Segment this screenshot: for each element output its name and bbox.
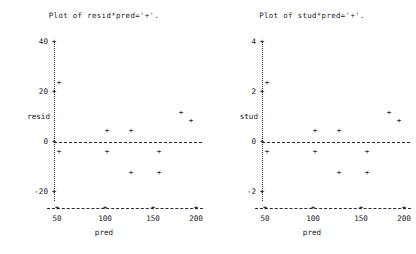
page-title: Plot of stud*pred='+'. <box>208 11 416 20</box>
y-tick-label: 20 <box>39 88 48 96</box>
y-tick-glyph: + <box>260 138 265 146</box>
x-tick-glyph: + <box>151 204 156 212</box>
data-point: + <box>129 127 134 135</box>
data-point: + <box>57 148 62 156</box>
data-point: + <box>105 127 110 135</box>
y-tick-label: -2 <box>247 188 256 196</box>
x-tick-label: 200 <box>189 215 203 223</box>
x-tick-label: 100 <box>306 215 320 223</box>
y-tick-glyph: + <box>260 38 265 46</box>
x-tick-label: 200 <box>397 215 411 223</box>
y-tick-label: 0 <box>251 138 256 146</box>
x-tick-glyph: + <box>311 204 316 212</box>
data-point: + <box>265 148 270 156</box>
y-axis-line <box>54 42 55 201</box>
y-tick-glyph: + <box>260 188 265 196</box>
x-tick-glyph: + <box>194 204 199 212</box>
data-point: + <box>337 127 342 135</box>
data-point: + <box>365 148 370 156</box>
y-tick-glyph: + <box>52 188 57 196</box>
x-axis-title: pred <box>0 228 208 237</box>
y-tick-glyph: + <box>52 38 57 46</box>
x-tick-glyph: + <box>55 204 60 212</box>
x-tick-label: 50 <box>260 215 269 223</box>
x-tick-label: 150 <box>146 215 160 223</box>
y-tick-glyph: + <box>52 138 57 146</box>
data-point: + <box>265 79 270 87</box>
x-tick-glyph: + <box>402 204 407 212</box>
y-tick-label: 40 <box>39 38 48 46</box>
data-point: + <box>179 109 184 117</box>
residual-plot-panel: Plot of resid*pred='+'. resid pred + + +… <box>0 0 208 254</box>
y-axis-line <box>262 42 263 201</box>
data-point: + <box>313 148 318 156</box>
x-axis-line <box>47 208 203 209</box>
page-title: Plot of resid*pred='+'. <box>0 11 208 20</box>
y-axis-title: stud <box>240 113 258 121</box>
x-axis-line <box>255 208 411 209</box>
data-point: + <box>129 169 134 177</box>
zero-reference-line <box>262 142 410 143</box>
data-point: + <box>105 148 110 156</box>
x-tick-glyph: + <box>359 204 364 212</box>
data-point: + <box>387 109 392 117</box>
x-tick-label: 50 <box>52 215 61 223</box>
zero-reference-line <box>54 142 202 143</box>
data-point: + <box>337 169 342 177</box>
x-axis-title: pred <box>208 228 416 237</box>
x-tick-label: 150 <box>354 215 368 223</box>
y-tick-label: 0 <box>43 138 48 146</box>
y-tick-label: 2 <box>251 88 256 96</box>
y-tick-label: 4 <box>251 38 256 46</box>
y-tick-glyph: + <box>52 88 57 96</box>
data-point: + <box>57 79 62 87</box>
data-point: + <box>365 169 370 177</box>
y-tick-glyph: + <box>260 88 265 96</box>
data-point: + <box>157 169 162 177</box>
data-point: + <box>157 148 162 156</box>
studentized-residual-plot-panel: Plot of stud*pred='+'. stud pred + + + +… <box>208 0 416 254</box>
data-point: + <box>313 127 318 135</box>
x-tick-glyph: + <box>103 204 108 212</box>
data-point: + <box>189 117 194 125</box>
y-tick-label: -20 <box>34 188 48 196</box>
y-axis-title: resid <box>27 113 50 121</box>
x-tick-label: 100 <box>98 215 112 223</box>
x-tick-glyph: + <box>263 204 268 212</box>
data-point: + <box>397 117 402 125</box>
